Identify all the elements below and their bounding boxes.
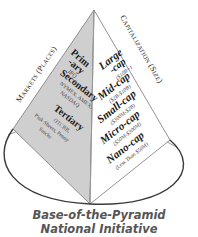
left-face-markets <box>13 10 94 204</box>
caption-line-1: Base-of-the-Pyramid <box>32 208 166 222</box>
caption: Base-of-the-Pyramid National Initiative <box>32 208 166 236</box>
caption-line-2: National Initiative <box>41 222 158 236</box>
pyramid-diagram: Markets (Places) Capitalization (Size) P… <box>0 0 198 237</box>
